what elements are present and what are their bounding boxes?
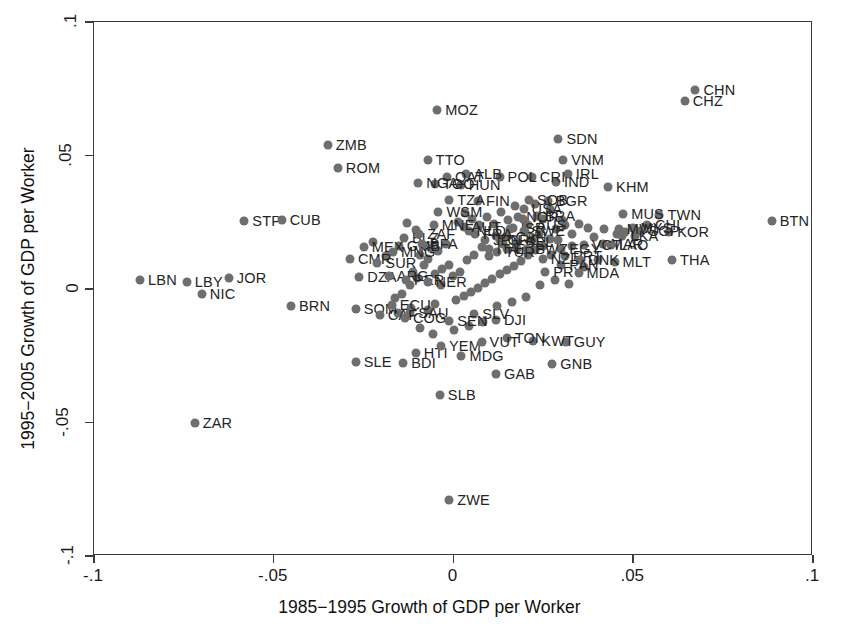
data-point [477,337,486,346]
data-point [559,156,568,165]
point-label: NIC [210,286,236,302]
point-label: LAO [619,237,649,253]
data-point [491,369,500,378]
point-label: BTN [780,213,810,229]
point-label: SLB [448,387,476,403]
data-point [287,302,296,311]
point-label: IND [564,174,590,190]
data-point [600,224,609,233]
point-label: COG [413,310,447,326]
data-point [182,278,191,287]
point-label: CRI [540,169,566,185]
point-label: THA [680,252,710,268]
data-point [351,305,360,314]
point-label: MDG [469,348,503,364]
point-label: ZWE [457,492,490,508]
data-point [574,268,583,277]
data-point [445,496,454,505]
x-tick-label: .05 [620,566,644,586]
data-point [436,342,445,351]
point-label: FIN [486,193,510,209]
point-label: POL [508,169,538,185]
point-label: ZAR [203,415,233,431]
x-tick [93,555,95,563]
x-tick [453,555,455,563]
point-label: SWZ [535,241,568,257]
data-point [197,290,206,299]
data-point [400,313,409,322]
data-point [484,244,493,253]
point-label: GUY [574,334,606,350]
y-axis-title: 1995−2005 Growth of GDP per Worker [18,39,39,559]
x-tick [273,555,275,563]
point-label: MOZ [445,102,478,118]
data-point [423,155,432,164]
data-point [411,348,420,357]
data-point [452,296,461,305]
point-label: KHM [616,179,649,195]
plot-frame: BTNCHNCHZTWNMUSKHMTHAKORCHLMYSSGPMWILKAM… [93,21,812,555]
data-point [136,276,145,285]
y-tick-label: -.05 [49,412,78,432]
data-point [536,280,545,289]
y-tick-label: .05 [54,145,78,165]
data-point [277,216,286,225]
point-label: JOR [237,270,267,286]
scatter-plot-figure: BTNCHNCHZTWNMUSKHMTHAKORCHLMYSSGPMWILKAM… [0,0,859,635]
data-point [568,230,577,239]
point-label: NGA [426,175,458,191]
point-label: VUT [490,334,520,350]
point-label: TTO [436,152,465,168]
data-point [619,210,628,219]
x-tick [632,555,634,563]
point-label: NER [436,274,467,290]
data-point [463,256,472,265]
y-tick-label: .1 [64,11,78,31]
point-label: TON [515,330,546,346]
data-point [373,258,382,267]
y-tick [85,21,93,23]
data-point [541,268,550,277]
x-tick [812,555,814,563]
data-point [375,311,384,320]
plot-area: BTNCHNCHZTWNMUSKHMTHAKORCHLMYSSGPMWILKAM… [94,22,811,554]
data-point [399,359,408,368]
point-label: CUB [290,212,321,228]
data-point [190,418,199,427]
data-point [403,218,412,227]
x-axis-title: 1985−1995 Growth of GDP per Worker [0,597,859,618]
data-point [574,219,583,228]
data-point [496,208,505,217]
y-tick [85,555,93,557]
x-tick-label: 0 [448,566,457,586]
data-point [680,96,689,105]
point-label: MLT [623,254,652,270]
point-label: SEN [457,313,487,329]
x-tick-label: -.1 [83,566,103,586]
data-point [565,280,574,289]
data-point [323,140,332,149]
point-label: BRN [299,298,330,314]
point-label: ZMB [336,137,367,153]
y-tick-label: -.1 [58,545,78,565]
data-point [333,163,342,172]
data-point [767,217,776,226]
point-label: LBN [148,272,177,288]
data-point [433,105,442,114]
point-label: CHZ [693,93,723,109]
data-point [345,255,354,264]
y-tick [85,288,93,290]
data-point [402,275,411,284]
y-tick [85,422,93,424]
data-point [428,329,437,338]
data-point [355,272,364,281]
data-point [435,391,444,400]
data-point [548,360,557,369]
point-label: AUT [472,219,502,235]
data-point [604,182,613,191]
x-tick-label: -.05 [258,566,287,586]
data-point [434,207,443,216]
data-point [351,357,360,366]
point-label: GNB [560,356,592,372]
data-point [457,352,466,361]
